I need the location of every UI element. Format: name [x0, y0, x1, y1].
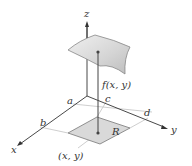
base-point: [96, 131, 99, 134]
y-arrow-icon: [161, 125, 168, 129]
x-axis-label: x: [11, 144, 17, 155]
label-b: b: [40, 117, 46, 128]
surface-point: [96, 50, 99, 53]
diagram-figure: z y x a b c d f(x, y) R (x, y): [0, 0, 192, 166]
x-arrow-icon: [17, 141, 23, 146]
point-label: (x, y): [58, 150, 84, 161]
region-r: [68, 117, 130, 144]
z-axis-label: z: [83, 8, 90, 19]
y-axis-label: y: [170, 124, 177, 135]
x-axis: [20, 96, 87, 144]
region-label: R: [111, 126, 120, 137]
surface-patch: [68, 35, 130, 74]
height-label: f(x, y): [101, 79, 131, 90]
label-d: d: [144, 107, 150, 118]
label-a: a: [67, 95, 73, 106]
label-c: c: [105, 93, 111, 104]
